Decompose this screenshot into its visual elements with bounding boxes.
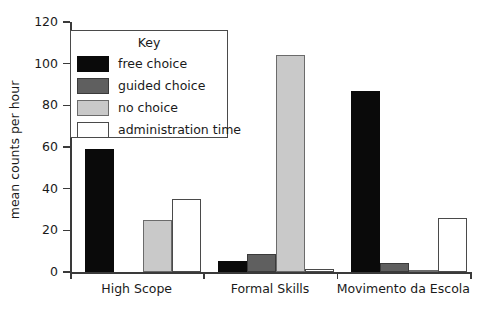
bar-movimento-da-escola-guided-choice [380,263,409,272]
legend-swatch-free-choice [77,56,109,72]
legend-title: Key [71,35,227,50]
x-axis-category-label: Movimento da Escola [337,281,470,296]
legend-entry-label: guided choice [118,78,205,93]
y-axis-tick [63,146,70,148]
legend-swatch-no-choice [77,100,109,116]
bar-movimento-da-escola-administration-time [438,218,467,272]
y-axis-tick-label: 120 [0,14,58,29]
y-axis-tick [63,230,70,232]
y-axis-tick-label: 0 [0,264,58,279]
y-axis-tick-label: 20 [0,222,58,237]
legend-entry: free choice [77,53,227,74]
y-axis-tick [63,188,70,190]
y-axis-tick-label: 100 [0,56,58,71]
x-axis-category-label: Formal Skills [203,281,336,296]
legend-entries: free choiceguided choiceno choiceadminis… [71,53,227,140]
bar-formal-skills-no-choice [276,55,305,272]
x-axis-category-label: High Scope [70,281,203,296]
legend-box: Key free choiceguided choiceno choiceadm… [70,30,228,138]
legend-entry: administration time [77,119,227,140]
bar-chart: mean counts per hour 020406080100120 Hig… [0,0,488,317]
x-axis-tick [470,272,472,279]
y-axis-tick [63,105,70,107]
x-axis-tick [203,272,205,279]
y-axis-tick [63,271,70,273]
y-axis-tick-label: 80 [0,97,58,112]
bar-formal-skills-free-choice [218,261,247,272]
bar-movimento-da-escola-free-choice [351,91,380,272]
legend-swatch-guided-choice [77,78,109,94]
y-axis-tick-label: 60 [0,139,58,154]
x-axis-tick [70,272,72,279]
legend-entry-label: free choice [118,56,187,71]
legend-entry: no choice [77,97,227,118]
bar-high-scope-administration-time [172,199,201,272]
y-axis-tick [63,63,70,65]
legend-entry-label: no choice [118,100,178,115]
y-axis-tick-label: 40 [0,181,58,196]
bar-formal-skills-guided-choice [247,254,276,272]
legend-entry-label: administration time [118,122,241,137]
bar-high-scope-free-choice [85,149,114,272]
y-axis-tick [63,21,70,23]
x-axis-tick [337,272,339,279]
bar-formal-skills-administration-time [305,269,334,272]
legend-swatch-administration-time [77,122,109,138]
x-axis-line [70,272,471,274]
bar-high-scope-no-choice [143,220,172,272]
bar-movimento-da-escola-no-choice [409,270,438,272]
legend-entry: guided choice [77,75,227,96]
